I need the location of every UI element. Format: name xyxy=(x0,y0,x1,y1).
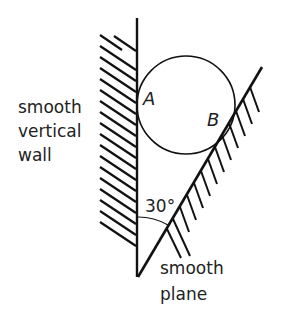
point-a-label: A xyxy=(143,88,155,109)
wall-label-line-3: wall xyxy=(18,145,52,165)
wall-label-line-2: vertical xyxy=(18,121,81,141)
plane-label-line-1: smooth xyxy=(160,258,224,278)
angle-label: 30° xyxy=(145,196,175,216)
point-b-label: B xyxy=(207,109,219,130)
plane-label-line-2: plane xyxy=(160,284,207,304)
angle-arc xyxy=(137,217,168,225)
wall-hatching xyxy=(100,35,136,246)
inclined-plane-line xyxy=(138,67,262,277)
wall-label-line-1: smooth xyxy=(18,97,82,117)
wall-plane-sphere-diagram: smooth vertical wall smooth plane A B 30… xyxy=(0,0,281,324)
